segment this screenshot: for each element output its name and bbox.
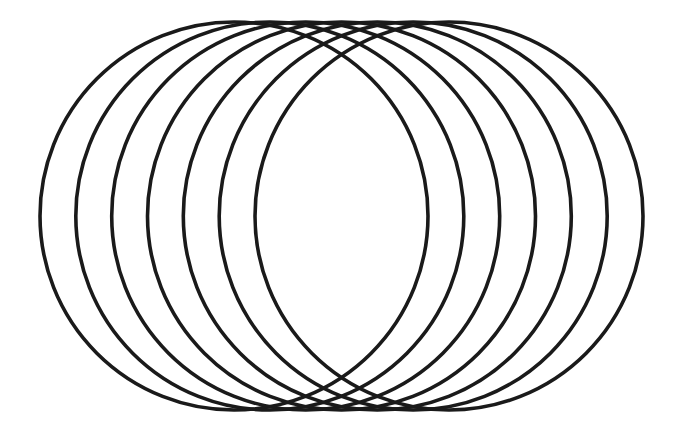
figure-canvas [0,0,686,433]
figure-background [0,0,686,433]
overlapping-circles-figure [0,0,686,433]
